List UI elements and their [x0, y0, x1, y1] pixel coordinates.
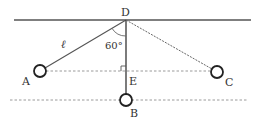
bob-a [34, 65, 46, 77]
label-d: D [121, 6, 130, 19]
label-b: B [130, 107, 138, 120]
pendulum-diagram: D A B C E ℓ 60° [0, 0, 258, 125]
bob-c [211, 66, 223, 78]
label-e: E [129, 75, 137, 88]
right-angle-mark [121, 66, 126, 71]
angle-arc [112, 28, 126, 36]
string-dc [126, 20, 212, 69]
label-a: A [21, 75, 31, 88]
label-length: ℓ [61, 38, 66, 51]
label-angle: 60° [105, 40, 123, 51]
label-c: C [225, 76, 233, 89]
bob-b [120, 94, 132, 106]
